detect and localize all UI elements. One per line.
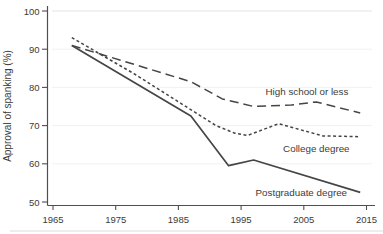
x-tick-label-1965: 1965 <box>42 214 63 225</box>
series-postgraduate-degree <box>72 45 360 192</box>
series-label-college-degree: College degree <box>283 143 350 154</box>
y-tick-label-50: 50 <box>29 197 40 208</box>
y-tick-label-100: 100 <box>24 6 40 17</box>
series-label-high-school-or-less: High school or less <box>266 86 349 97</box>
x-tick-label-2015: 2015 <box>356 214 377 225</box>
spanking-approval-figure: Approval of spanking (%) 506070809010019… <box>0 0 383 234</box>
x-tick-label-2005: 2005 <box>293 214 314 225</box>
line-chart: Approval of spanking (%) 506070809010019… <box>0 0 383 234</box>
y-tick-label-70: 70 <box>29 120 40 131</box>
series-high-school-or-less <box>72 45 360 113</box>
x-tick-label-1985: 1985 <box>168 214 189 225</box>
y-tick-label-60: 60 <box>29 158 40 169</box>
y-tick-label-90: 90 <box>29 44 40 55</box>
x-tick-label-1995: 1995 <box>231 214 252 225</box>
y-axis-title: Approval of spanking (%) <box>2 50 13 162</box>
series-label-postgraduate-degree: Postgraduate degree <box>256 187 348 198</box>
y-tick-label-80: 80 <box>29 82 40 93</box>
x-tick-label-1975: 1975 <box>105 214 126 225</box>
